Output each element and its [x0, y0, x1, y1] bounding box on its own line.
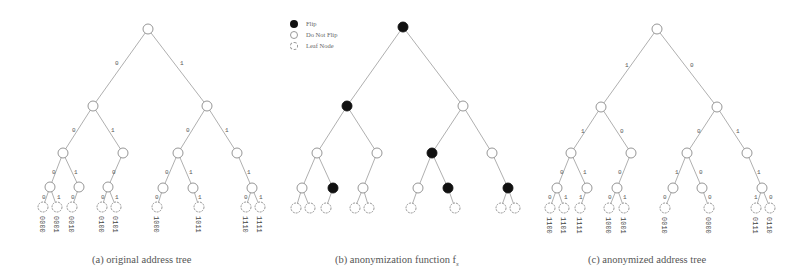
- svg-text:0: 0: [618, 169, 622, 176]
- svg-text:0: 0: [699, 169, 703, 176]
- edge-label: 0: [690, 62, 694, 69]
- svg-text:1: 1: [115, 194, 119, 201]
- leaf-address: 0010: [67, 216, 75, 233]
- flip-node: [328, 183, 338, 193]
- svg-text:1: 1: [579, 194, 583, 201]
- edge-label: 1: [625, 62, 629, 69]
- caption-subscript: s: [456, 260, 459, 268]
- svg-text:1: 1: [74, 169, 78, 176]
- leaf-address: 0000: [38, 216, 46, 233]
- svg-text:0: 0: [663, 194, 667, 201]
- svg-text:0: 0: [548, 194, 552, 201]
- svg-text:0: 0: [52, 169, 56, 176]
- flip-node: [503, 183, 513, 193]
- filled-circle-icon: [290, 20, 298, 28]
- leaf-address: 0100: [97, 216, 105, 233]
- svg-text:1: 1: [198, 194, 202, 201]
- leaf-address: 1111: [575, 217, 583, 234]
- svg-text:0: 0: [101, 194, 105, 201]
- svg-text:0: 0: [155, 194, 159, 201]
- flip-node: [443, 183, 453, 193]
- caption-original-tree: (a) original address tree: [92, 254, 191, 265]
- leaf-address: 0010: [660, 217, 668, 234]
- svg-text:1: 1: [564, 194, 568, 201]
- diagram-canvas: 0 1 0 1 0 1 0 1 0 0 1 1 0 1 0 0 1 0 1 0 …: [0, 0, 807, 275]
- edge-label: 0: [115, 60, 119, 67]
- leaf-address: 1100: [545, 217, 553, 234]
- svg-text:1: 1: [736, 128, 740, 135]
- leaf-address: 1111: [255, 216, 263, 233]
- svg-text:0: 0: [71, 194, 75, 201]
- svg-text:1: 1: [247, 169, 251, 176]
- svg-text:1: 1: [57, 194, 61, 201]
- edge-label: 1: [180, 60, 184, 67]
- flip-node: [342, 101, 352, 111]
- leaf-address: 1101: [559, 217, 567, 234]
- caption-text: (b) anonymization function f: [335, 254, 456, 265]
- legend-item-no-flip: Do Not Flip: [290, 29, 337, 40]
- svg-text:1: 1: [225, 127, 229, 134]
- svg-text:1: 1: [111, 127, 115, 134]
- svg-text:1: 1: [581, 128, 585, 135]
- tree-anonymized: 1 0 1 0 0 1 0 1 0 1 0 1 0 1 1 0 1 0 0 1 …: [545, 24, 775, 234]
- flip-node: [398, 22, 408, 32]
- caption-anonymized-tree: (c) anonymized address tree: [588, 254, 706, 265]
- leaf-address: 1000: [604, 217, 612, 234]
- leaf-address: 0111: [751, 217, 759, 234]
- svg-text:0: 0: [620, 128, 624, 135]
- svg-text:1: 1: [259, 194, 263, 201]
- svg-text:0: 0: [769, 194, 773, 201]
- tree-original: 0 1 0 1 0 1 0 1 0 0 1 1 0 1 0 0 1 0 1 0 …: [38, 24, 265, 233]
- svg-text:0: 0: [560, 169, 564, 176]
- svg-text:1: 1: [757, 169, 761, 176]
- leaf-address: 1011: [194, 216, 202, 233]
- leaf-address: 0001: [52, 216, 60, 233]
- svg-text:0: 0: [708, 194, 712, 201]
- leaf-address: 1001: [619, 217, 627, 234]
- svg-text:1: 1: [623, 194, 627, 201]
- flip-node: [427, 148, 437, 158]
- svg-text:0: 0: [244, 194, 248, 201]
- leaf-address: 1110: [241, 216, 249, 233]
- svg-text:1: 1: [583, 169, 587, 176]
- svg-text:1: 1: [754, 194, 758, 201]
- svg-text:0: 0: [112, 169, 116, 176]
- leaf-address: 0101: [111, 216, 119, 233]
- svg-text:1: 1: [675, 169, 679, 176]
- legend: Flip Do Not Flip Leaf Node: [290, 18, 337, 51]
- svg-text:0: 0: [42, 194, 46, 201]
- svg-text:0: 0: [72, 127, 76, 134]
- svg-text:0: 0: [608, 194, 612, 201]
- legend-item-leaf: Leaf Node: [290, 40, 337, 51]
- legend-label: Do Not Flip: [306, 31, 337, 38]
- svg-text:0: 0: [697, 128, 701, 135]
- svg-text:0: 0: [186, 127, 190, 134]
- svg-text:0: 0: [165, 169, 169, 176]
- leaf-address: 1000: [152, 216, 160, 233]
- caption-anonymization-function: (b) anonymization function fs: [335, 254, 459, 268]
- open-circle-icon: [290, 31, 298, 39]
- leaf-address: 0110: [765, 217, 773, 234]
- leaf-address: 0000: [704, 217, 712, 234]
- legend-label: Leaf Node: [306, 42, 334, 49]
- svg-text:1: 1: [189, 169, 193, 176]
- dashed-circle-icon: [290, 42, 298, 50]
- legend-item-flip: Flip: [290, 18, 337, 29]
- tree-node: [143, 24, 153, 34]
- legend-label: Flip: [306, 20, 316, 27]
